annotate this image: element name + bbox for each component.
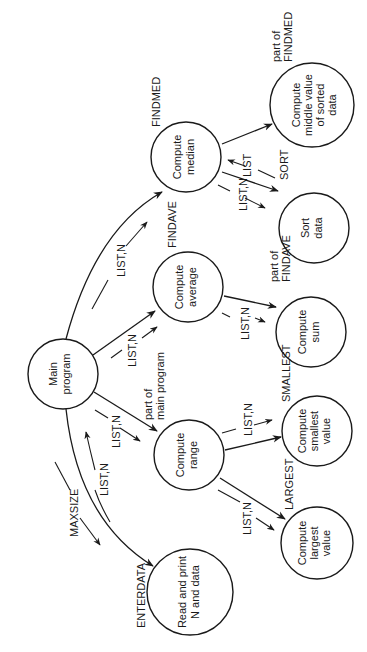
node-compute-median: Compute median FINDMED: [150, 77, 221, 192]
node-label: N and data: [189, 564, 201, 619]
node-label: value: [320, 418, 332, 444]
module-label: FINDAVE: [166, 201, 178, 248]
edge-range-smallest: [225, 437, 281, 450]
flow-label: LIST,N: [239, 307, 251, 340]
node-compute-range: Compute range part of main program: [142, 352, 224, 490]
flow-labels: LIST,N LIST,N LIST,N LIST,N MAXSIZE LIST…: [68, 153, 254, 537]
edge-average-sum: [224, 296, 276, 307]
node-label: middle value: [302, 74, 314, 136]
module-label: SORT: [278, 149, 290, 180]
node-label: value: [320, 530, 332, 556]
node-main-program: Main program: [28, 339, 98, 409]
flow-label: LIST,N: [110, 415, 122, 448]
flow-label: MAXSIZE: [68, 489, 80, 537]
node-label: Compute: [173, 265, 185, 310]
node-label: average: [186, 267, 198, 307]
node-label: Compute: [296, 521, 308, 566]
node-label: data: [326, 93, 338, 115]
node-label: median: [184, 139, 196, 175]
node-label: range: [187, 441, 199, 469]
flow-label: LIST,N: [237, 178, 249, 211]
node-label: Compute: [296, 409, 308, 454]
module-label: part of: [270, 30, 282, 62]
module-label: FINDMED: [150, 77, 162, 127]
node-label: data: [312, 216, 324, 238]
node-label: of sorted: [314, 84, 326, 127]
node-label: sum: [309, 322, 321, 343]
node-label: Compute: [171, 135, 183, 180]
edge-median-middle: [222, 124, 272, 144]
module-label: LARGEST: [283, 458, 295, 510]
flow-label: LIST,N: [126, 334, 138, 367]
edge-main-average: [93, 311, 155, 355]
node-label: Compute: [296, 310, 308, 355]
module-label: ENTERDATA: [135, 562, 147, 628]
module-label: FINDAVE: [280, 235, 292, 282]
module-label: main program: [154, 352, 166, 420]
node-label: Compute: [174, 433, 186, 478]
node-read-and-print: Read and print N and data ENTERDATA: [135, 549, 233, 635]
node-label: largest: [308, 526, 320, 559]
flow-label: LIST,N: [241, 502, 253, 535]
node-compute-largest: Compute largest value LARGEST: [281, 458, 353, 579]
flow-label: LIST: [241, 153, 253, 177]
node-label: Read and print: [176, 556, 188, 628]
module-label: part of: [142, 388, 154, 420]
node-compute-middle-value: Compute middle value of sorted data part…: [270, 12, 354, 147]
module-label: FINDMED: [282, 12, 294, 62]
flow-label: LIST,N: [98, 463, 110, 496]
flow-label: LIST,N: [242, 403, 254, 436]
module-label: part of: [268, 250, 280, 282]
node-label: program: [60, 354, 72, 395]
node-label: Main: [47, 362, 59, 386]
node-label: Compute: [290, 83, 302, 128]
node-label: Sort: [299, 218, 311, 238]
node-compute-average: Compute average FINDAVE: [153, 201, 223, 322]
structure-chart: Main program Compute range part of main …: [0, 0, 367, 652]
flow-label: LIST,N: [115, 244, 127, 277]
node-label: smallest: [308, 411, 320, 451]
module-label: SMALLEST: [280, 344, 292, 402]
